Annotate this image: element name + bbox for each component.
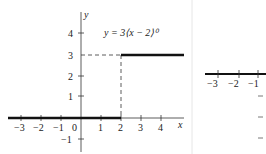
x-tick-label: −1 — [53, 122, 64, 133]
x-tick-label: −3 — [14, 122, 25, 133]
chart-canvas: y x y = 3⟨x − 2⟩⁰ −3 −2 −1 0 1 2 3 4 4 3… — [0, 0, 266, 154]
x-tick-label: 2 — [118, 122, 123, 133]
right-x-tick-label: −1 — [248, 78, 259, 89]
y-tick-label: 2 — [68, 71, 73, 82]
right-x-tick-label: −3 — [207, 78, 218, 89]
left-chart: y x y = 3⟨x − 2⟩⁰ −3 −2 −1 0 1 2 3 4 4 3… — [8, 9, 184, 152]
x-tick-label: 1 — [98, 122, 103, 133]
y-tick-label: 1 — [68, 91, 73, 102]
y-tick-label: 4 — [68, 28, 73, 39]
formula-label: y = 3⟨x − 2⟩⁰ — [103, 27, 160, 38]
x-tick-label: 4 — [158, 122, 163, 133]
y-tick-label: 3 — [68, 50, 73, 61]
x-tick-label: 0 — [72, 122, 77, 133]
right-chart: −3 −2 −1 — [205, 70, 266, 138]
x-tick-label: 3 — [138, 122, 143, 133]
x-tick-label: −2 — [33, 122, 44, 133]
right-x-tick-label: −2 — [228, 78, 239, 89]
right-y-ticks — [258, 96, 263, 138]
y-axis-label: y — [83, 9, 89, 20]
x-axis-label: x — [177, 119, 183, 130]
y-tick-label: −1 — [61, 134, 72, 145]
